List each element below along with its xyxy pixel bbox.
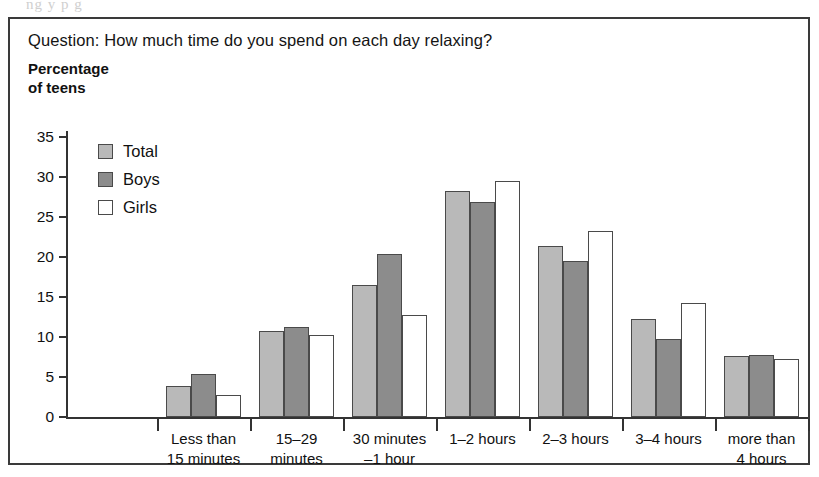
bar-girls-2	[402, 315, 427, 417]
bar-total-0	[166, 386, 191, 417]
bar-girls-3	[495, 181, 520, 417]
legend-swatch-boys-icon	[98, 172, 113, 187]
bar-girls-6	[774, 359, 799, 417]
legend-swatch-girls-icon	[98, 200, 113, 215]
figure-frame: Question: How much time do you spend on …	[8, 17, 810, 465]
bar-girls-4	[588, 231, 613, 417]
bar-total-1	[259, 331, 284, 417]
bar-boys-2	[377, 254, 402, 417]
x-label-line1: 30 minutes	[353, 430, 426, 447]
x-label-line2: 4 hours	[715, 449, 808, 469]
legend-label-girls: Girls	[123, 198, 157, 217]
legend-label-total: Total	[123, 142, 158, 161]
x-label-line1: more than	[728, 430, 796, 447]
bar-girls-1	[309, 335, 334, 417]
bar-total-2	[352, 285, 377, 417]
legend-swatch-total-icon	[98, 144, 113, 159]
bars-layer	[10, 19, 812, 467]
bar-boys-4	[563, 261, 588, 417]
x-label-3: 1–2 hours	[436, 429, 529, 449]
bar-girls-0	[216, 395, 241, 417]
x-label-1: 15–29minutes	[250, 429, 343, 469]
x-label-line1: 1–2 hours	[449, 430, 516, 447]
legend-item-total: Total	[98, 137, 160, 165]
bar-total-5	[631, 319, 656, 417]
bar-total-4	[538, 246, 563, 417]
legend-label-boys: Boys	[123, 170, 160, 189]
x-label-line1: 3–4 hours	[635, 430, 702, 447]
bar-boys-5	[656, 339, 681, 417]
x-axis-labels: Less than15 minutes15–29minutes30 minute…	[10, 423, 812, 467]
plot-area: 05101520253035 Less than15 minutes15–29m…	[10, 19, 812, 467]
legend-item-girls: Girls	[98, 193, 160, 221]
x-label-line1: 2–3 hours	[542, 430, 609, 447]
x-label-5: 3–4 hours	[622, 429, 715, 449]
bar-total-6	[724, 356, 749, 417]
bar-boys-3	[470, 202, 495, 417]
x-label-2: 30 minutes–1 hour	[343, 429, 436, 469]
chart-legend: Total Boys Girls	[98, 137, 160, 221]
x-label-6: more than4 hours	[715, 429, 808, 469]
x-label-4: 2–3 hours	[529, 429, 622, 449]
x-label-line2: minutes	[250, 449, 343, 469]
bar-girls-5	[681, 303, 706, 417]
x-label-0: Less than15 minutes	[157, 429, 250, 469]
bar-boys-0	[191, 374, 216, 417]
x-label-line1: 15–29	[276, 430, 318, 447]
page-bleed-text: ng y p g	[26, 0, 726, 14]
x-label-line1: Less than	[171, 430, 236, 447]
bar-boys-1	[284, 327, 309, 417]
x-label-line2: 15 minutes	[157, 449, 250, 469]
x-label-line2: –1 hour	[343, 449, 436, 469]
legend-item-boys: Boys	[98, 165, 160, 193]
bar-total-3	[445, 191, 470, 417]
bar-boys-6	[749, 355, 774, 417]
